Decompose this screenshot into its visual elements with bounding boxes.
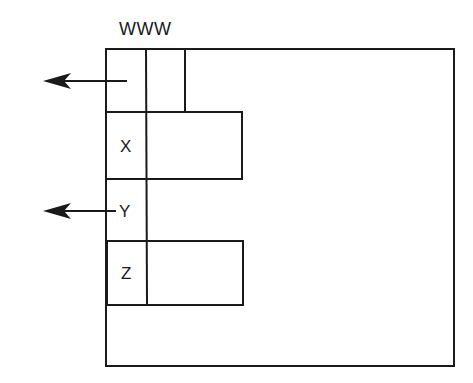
outer-frame (106, 49, 454, 366)
y-label: Y (119, 203, 130, 220)
diagram-canvas (0, 0, 473, 383)
www-label: WWW (119, 20, 171, 38)
column-divider (146, 49, 147, 305)
z-label: Z (121, 265, 131, 282)
x-label: X (120, 138, 131, 155)
